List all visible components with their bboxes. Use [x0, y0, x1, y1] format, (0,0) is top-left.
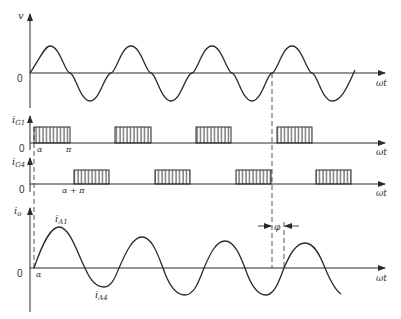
voltage-panel: v 0 ωt — [17, 10, 387, 108]
current-panel: io 0 ωt α iA1 iA4 — [14, 205, 387, 312]
ia4-label: iA4 — [95, 289, 108, 302]
ig1-pulse — [115, 127, 151, 143]
phi-label: φ — [274, 222, 281, 232]
ig4-x-label: ωt — [376, 188, 387, 198]
ig1-pulse — [277, 127, 312, 143]
io-axis-label: io — [14, 205, 21, 218]
ig4-axis-label: iG4 — [12, 156, 25, 169]
ig4-zero-label: 0 — [19, 184, 25, 195]
v-zero-label: 0 — [17, 73, 23, 84]
ig1-pulse — [196, 127, 231, 143]
io-alpha-label: α — [36, 270, 42, 279]
waveform-diagram: v 0 ωt iG1 0 ωt α π iG4 0 ωt α + π — [0, 0, 401, 319]
pi-tick-label: π — [65, 145, 72, 154]
alpha-plus-pi-label: α + π — [62, 186, 85, 195]
ia1-label: iA1 — [55, 213, 68, 226]
ig1-axis-label: iG1 — [12, 114, 25, 127]
v-axis-label: v — [18, 10, 24, 21]
ig4-pulse — [74, 170, 109, 184]
v-x-label: ωt — [376, 78, 387, 88]
ig1-zero-label: 0 — [19, 143, 25, 154]
ig4-pulses — [74, 170, 351, 184]
gate4-panel: iG4 0 ωt α + π — [12, 156, 387, 198]
ig4-pulse — [236, 170, 271, 184]
io-x-label: ωt — [376, 273, 387, 283]
phase-shift-annotation: φ — [258, 222, 299, 232]
ig4-pulse — [155, 170, 190, 184]
ig1-pulses — [34, 127, 312, 143]
alpha-tick-label: α — [37, 145, 43, 154]
ig1-pulse — [34, 127, 70, 143]
current-waveform — [34, 227, 341, 295]
ig1-x-label: ωt — [376, 147, 387, 157]
io-zero-label: 0 — [17, 268, 23, 279]
gate1-panel: iG1 0 ωt α π — [12, 114, 387, 157]
ig4-pulse — [316, 170, 351, 184]
diagram-svg: v 0 ωt iG1 0 ωt α π iG4 0 ωt α + π — [0, 0, 401, 319]
